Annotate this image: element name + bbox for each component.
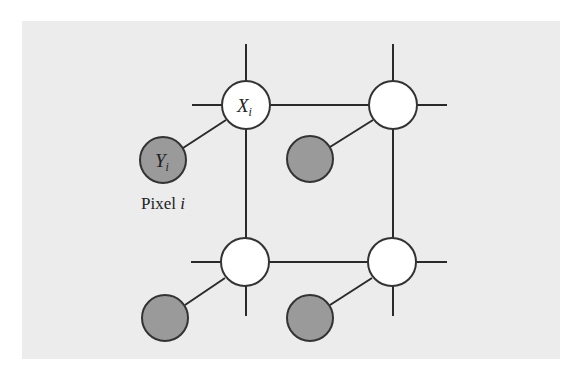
mrf-diagram: Xi Yi Pixel i (0, 0, 571, 371)
hidden-node (369, 81, 417, 129)
caption-pixel-i: Pixel i (141, 194, 185, 213)
hidden-node (368, 238, 416, 286)
edge-x-y-top-right (330, 120, 373, 147)
observed-node (287, 136, 333, 182)
edge-x-y-bottom-right (330, 278, 372, 305)
hidden-node (221, 238, 269, 286)
observed-node (287, 295, 333, 341)
edge-x-y-bottom-left (185, 278, 225, 305)
edge-x-y-top-left (183, 120, 226, 148)
observed-node (142, 295, 188, 341)
